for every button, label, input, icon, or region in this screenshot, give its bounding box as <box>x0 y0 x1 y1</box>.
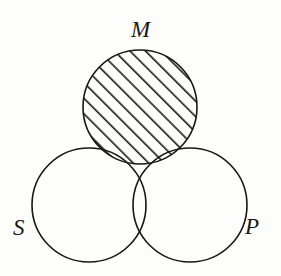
circle-label-m: M <box>131 18 150 41</box>
circle-label-p: P <box>245 215 259 238</box>
circle-label-s: S <box>13 216 25 239</box>
venn-diagram-figure: M S P <box>0 0 281 276</box>
